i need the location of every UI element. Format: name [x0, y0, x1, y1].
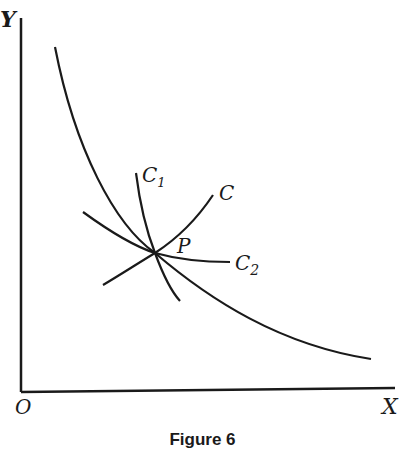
curve-c2-label: C2 — [235, 251, 259, 278]
origin-label: O — [15, 395, 31, 419]
curve-c2 — [83, 212, 230, 262]
curve-c1 — [136, 173, 180, 301]
figure-caption: Figure 6 — [0, 430, 405, 450]
y-axis-label: Y — [0, 6, 18, 32]
curve-c — [103, 195, 213, 285]
x-axis — [21, 388, 395, 392]
main-convex-curve — [55, 47, 371, 359]
point-p-label: P — [176, 234, 191, 258]
x-axis-label: X — [380, 394, 399, 419]
curve-c-label: C — [219, 181, 234, 205]
curve-c1-label: C1 — [142, 163, 166, 190]
